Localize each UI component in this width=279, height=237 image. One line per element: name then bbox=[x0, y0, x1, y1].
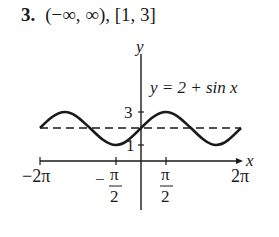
x-tick-label-half-pi-den: 2 bbox=[161, 187, 170, 206]
y-tick-label-3: 3 bbox=[124, 103, 133, 122]
sine-graph: y x 3 1 −2π − π 2 π 2 2π y = 2 + sin x bbox=[0, 0, 279, 237]
x-tick-label-half-pi-num: π bbox=[161, 165, 170, 184]
curve-label: y = 2 + sin x bbox=[148, 78, 238, 97]
x-tick-label-neg-half-pi-num: π bbox=[110, 165, 119, 184]
x-tick-label-neg-sign: − bbox=[95, 170, 105, 189]
x-tick-label-neg-two-pi: −2π bbox=[22, 166, 50, 186]
y-axis-label: y bbox=[134, 37, 144, 56]
x-axis-arrow-icon bbox=[236, 158, 243, 164]
x-tick-label-neg-half-pi-den: 2 bbox=[110, 187, 119, 206]
x-tick-label-two-pi: 2π bbox=[231, 166, 249, 186]
